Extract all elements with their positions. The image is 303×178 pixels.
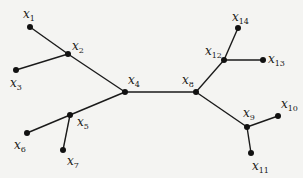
label-x12: x12 xyxy=(205,44,222,60)
node-x4 xyxy=(122,89,128,95)
labels-group: x1x2x3x4x5x6x7x8x9x10x11x12x13x14 xyxy=(10,7,298,175)
edge-x12-x14 xyxy=(224,28,238,60)
tree-svg: x1x2x3x4x5x6x7x8x9x10x11x12x13x14 xyxy=(0,0,303,178)
node-x2 xyxy=(65,51,71,57)
node-x8 xyxy=(193,89,199,95)
tree-diagram: x1x2x3x4x5x6x7x8x9x10x11x12x13x14 xyxy=(0,0,303,178)
edge-x9-x11 xyxy=(247,127,251,153)
node-x13 xyxy=(260,57,266,63)
label-x2: x2 xyxy=(72,39,84,55)
node-x5 xyxy=(67,112,73,118)
node-x1 xyxy=(27,24,33,30)
edge-x2-x4 xyxy=(68,54,125,92)
node-x11 xyxy=(248,150,254,156)
label-x6: x6 xyxy=(14,138,26,154)
label-x7: x7 xyxy=(67,154,79,170)
label-x13: x13 xyxy=(268,52,285,68)
edge-x8-x12 xyxy=(196,60,224,92)
node-x3 xyxy=(13,67,19,73)
label-x1: x1 xyxy=(23,7,35,23)
edges-group xyxy=(16,27,278,153)
node-x6 xyxy=(24,130,30,136)
label-x9: x9 xyxy=(243,106,255,122)
node-x9 xyxy=(244,124,250,130)
label-x11: x11 xyxy=(252,159,269,175)
edge-x4-x5 xyxy=(70,92,125,115)
label-x5: x5 xyxy=(77,115,89,131)
label-x14: x14 xyxy=(232,10,249,26)
label-x3: x3 xyxy=(10,76,22,92)
edge-x5-x6 xyxy=(27,115,70,133)
edge-x1-x2 xyxy=(30,27,68,54)
node-x7 xyxy=(60,147,66,153)
label-x8: x8 xyxy=(182,73,194,89)
edge-x8-x9 xyxy=(196,92,247,127)
edge-x3-x2 xyxy=(16,54,68,70)
node-x10 xyxy=(275,113,281,119)
label-x4: x4 xyxy=(128,73,140,89)
label-x10: x10 xyxy=(281,97,298,113)
edge-x5-x7 xyxy=(63,115,70,150)
